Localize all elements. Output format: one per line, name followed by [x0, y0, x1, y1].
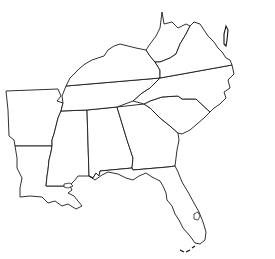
- delmarva-island: [224, 26, 228, 46]
- state-florida[interactable]: [89, 166, 206, 244]
- florida-keys: [180, 246, 195, 252]
- southeast-us-outline-map: [0, 0, 275, 259]
